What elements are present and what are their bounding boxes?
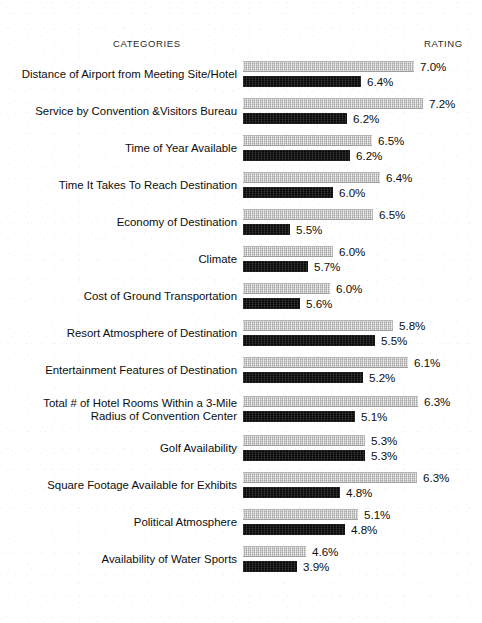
bar-black (243, 335, 375, 346)
bar-group: 6.1%5.2% (243, 352, 482, 389)
category-label: Distance of Airport from Meeting Site/Ho… (0, 68, 237, 82)
bar-line-gray: 6.5% (243, 135, 404, 146)
bar-value-label: 6.5% (378, 135, 404, 146)
bar-gray (243, 509, 358, 520)
bar-value-label: 6.0% (339, 246, 365, 257)
bar-chart: Distance of Airport from Meeting Site/Ho… (0, 56, 482, 578)
chart-row: Distance of Airport from Meeting Site/Ho… (0, 56, 482, 93)
chart-row: Climate6.0%5.7% (0, 241, 482, 278)
category-label: Entertainment Features of Destination (0, 364, 237, 378)
bar-group: 5.3%5.3% (243, 430, 482, 467)
bar-group: 6.3%5.1% (243, 389, 482, 430)
bar-group: 6.3%4.8% (243, 467, 482, 504)
bar-value-label: 6.0% (339, 187, 365, 198)
category-label: Political Atmosphere (0, 516, 237, 530)
bar-line-gray: 5.3% (243, 435, 397, 446)
chart-row: Service by Convention &Visitors Bureau7.… (0, 93, 482, 130)
bar-group: 7.0%6.4% (243, 56, 482, 93)
bar-gray (243, 209, 373, 220)
chart-row: Total # of Hotel Rooms Within a 3-Mile R… (0, 389, 482, 430)
bar-line-gray: 6.3% (243, 472, 449, 483)
bar-value-label: 5.3% (371, 450, 397, 461)
bar-black (243, 372, 363, 383)
chart-row: Square Footage Available for Exhibits6.3… (0, 467, 482, 504)
chart-row: Political Atmosphere5.1%4.8% (0, 504, 482, 541)
category-label: Time of Year Available (0, 142, 237, 156)
bar-group: 7.2%6.2% (243, 93, 482, 130)
bar-black (243, 298, 300, 309)
bar-group: 5.1%4.8% (243, 504, 482, 541)
category-label: Economy of Destination (0, 216, 237, 230)
bar-value-label: 5.1% (361, 411, 387, 422)
bar-line-gray: 6.0% (243, 283, 362, 294)
bar-black (243, 224, 290, 235)
bar-gray (243, 98, 423, 109)
bar-line-black: 4.8% (243, 487, 372, 498)
bar-black (243, 113, 347, 124)
bar-gray (243, 546, 306, 557)
bar-black (243, 450, 365, 461)
category-label: Square Footage Available for Exhibits (0, 479, 237, 493)
bar-black (243, 411, 355, 422)
bar-gray (243, 472, 417, 483)
bar-group: 6.5%5.5% (243, 204, 482, 241)
bar-value-label: 5.5% (296, 224, 322, 235)
bar-value-label: 5.3% (371, 435, 397, 446)
bar-value-label: 5.6% (306, 298, 332, 309)
bar-value-label: 6.1% (414, 357, 440, 368)
bar-line-gray: 7.0% (243, 61, 446, 72)
bar-value-label: 6.0% (336, 283, 362, 294)
bar-value-label: 6.2% (353, 113, 379, 124)
bar-gray (243, 246, 333, 257)
bar-value-label: 6.2% (356, 150, 382, 161)
bar-gray (243, 435, 365, 446)
bar-line-gray: 5.1% (243, 509, 390, 520)
bar-line-gray: 6.4% (243, 172, 412, 183)
bar-value-label: 6.5% (379, 209, 405, 220)
bar-black (243, 561, 297, 572)
bar-group: 4.6%3.9% (243, 541, 482, 578)
category-label: Resort Atmosphere of Destination (0, 327, 237, 341)
bar-black (243, 524, 345, 535)
bar-line-gray: 6.3% (243, 396, 450, 407)
category-label: Cost of Ground Transportation (0, 290, 237, 304)
bar-group: 6.4%6.0% (243, 167, 482, 204)
bar-black (243, 76, 361, 87)
bar-value-label: 6.3% (423, 472, 449, 483)
bar-line-black: 5.5% (243, 224, 322, 235)
bar-value-label: 5.2% (369, 372, 395, 383)
bar-black (243, 187, 333, 198)
bar-value-label: 7.0% (420, 61, 446, 72)
bar-line-black: 5.2% (243, 372, 395, 383)
category-label: Climate (0, 253, 237, 267)
chart-row: Golf Availability5.3%5.3% (0, 430, 482, 467)
bar-line-gray: 5.8% (243, 320, 425, 331)
bar-line-black: 6.4% (243, 76, 393, 87)
bar-value-label: 4.6% (312, 546, 338, 557)
bar-line-black: 3.9% (243, 561, 329, 572)
bar-value-label: 7.2% (429, 98, 455, 109)
bar-line-black: 6.2% (243, 113, 379, 124)
bar-gray (243, 396, 418, 407)
bar-gray (243, 357, 408, 368)
chart-row: Time of Year Available6.5%6.2% (0, 130, 482, 167)
chart-row: Entertainment Features of Destination6.1… (0, 352, 482, 389)
bar-line-gray: 6.0% (243, 246, 365, 257)
category-label: Service by Convention &Visitors Bureau (0, 105, 237, 119)
bar-gray (243, 61, 414, 72)
bar-line-black: 5.5% (243, 335, 407, 346)
bar-gray (243, 320, 393, 331)
category-label: Availability of Water Sports (0, 553, 237, 567)
bar-black (243, 150, 350, 161)
chart-row: Time It Takes To Reach Destination6.4%6.… (0, 167, 482, 204)
bar-line-black: 5.6% (243, 298, 332, 309)
chart-row: Resort Atmosphere of Destination5.8%5.5% (0, 315, 482, 352)
bar-line-gray: 6.1% (243, 357, 440, 368)
bar-line-gray: 6.5% (243, 209, 405, 220)
bar-value-label: 5.5% (381, 335, 407, 346)
bar-value-label: 6.4% (386, 172, 412, 183)
bar-black (243, 261, 308, 272)
bar-line-black: 6.2% (243, 150, 382, 161)
bar-group: 6.0%5.6% (243, 278, 482, 315)
categories-header: CATEGORIES (113, 38, 181, 49)
